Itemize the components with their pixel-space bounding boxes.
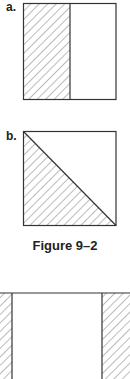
panel-b-square (24, 132, 117, 226)
figure-diagram (0, 0, 130, 379)
panel-a-square (24, 4, 117, 100)
panel-c-partial (0, 293, 130, 379)
panel-c-right-hatch (102, 293, 130, 379)
panel-a-hatched-half (24, 4, 71, 100)
panel-c-left-hatch (0, 293, 12, 379)
